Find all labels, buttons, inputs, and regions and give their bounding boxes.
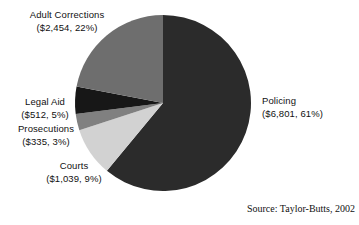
slice-label-legal-aid: Legal Aid ($512, 5%) — [2, 96, 88, 121]
pie-chart-figure: Adult Corrections ($2,454, 22%) Legal Ai… — [0, 0, 359, 225]
slice-label-prosecutions: Prosecutions ($335, 3%) — [0, 123, 92, 148]
slice-label-value: ($6,801, 61%) — [262, 108, 356, 121]
slice-label-name: Policing — [262, 95, 356, 108]
slice-label-policing: Policing ($6,801, 61%) — [262, 95, 356, 120]
slice-label-value: ($1,039, 9%) — [28, 173, 120, 186]
slice-label-value: ($512, 5%) — [2, 109, 88, 122]
slice-label-name: Prosecutions — [0, 123, 92, 136]
slice-label-name: Courts — [28, 160, 120, 173]
slice-label-value: ($335, 3%) — [0, 136, 92, 149]
slice-label-courts: Courts ($1,039, 9%) — [28, 160, 120, 185]
slice-label-name: Adult Corrections — [8, 9, 126, 22]
source-note: Source: Taylor-Butts, 2002 — [247, 203, 355, 215]
slice-label-name: Legal Aid — [2, 96, 88, 109]
slice-label-adult-corrections: Adult Corrections ($2,454, 22%) — [8, 9, 126, 34]
slice-label-value: ($2,454, 22%) — [8, 22, 126, 35]
